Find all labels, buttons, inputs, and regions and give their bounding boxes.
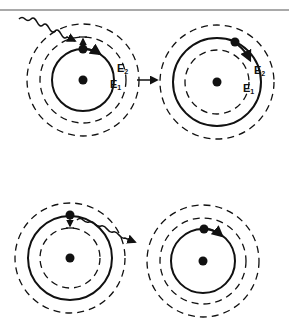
electron-icon (66, 211, 75, 220)
energy-level-diagram: E2 E1 E2 E1 (0, 0, 289, 329)
electron-icon (200, 225, 209, 234)
electron-icon (79, 45, 88, 54)
panel-emission-before (15, 203, 135, 313)
outgoing-photon-icon (77, 219, 135, 243)
panel-absorption-before: E2 E1 (19, 18, 139, 137)
nucleus-icon (213, 78, 222, 87)
label-e1: E1 (110, 78, 121, 91)
panel-absorption-after: E2 E1 (160, 25, 274, 139)
label-e2: E2 (254, 64, 265, 77)
label-e2: E2 (117, 62, 128, 75)
incoming-photon-icon (19, 18, 75, 42)
nucleus-icon (79, 76, 88, 85)
label-e1: E1 (243, 82, 254, 95)
nucleus-icon (66, 254, 75, 263)
orbit-direction-arrow-icon (208, 229, 222, 236)
nucleus-icon (199, 257, 208, 266)
orbit-direction-arrow-icon (87, 49, 100, 54)
panel-emission-after (147, 205, 259, 317)
